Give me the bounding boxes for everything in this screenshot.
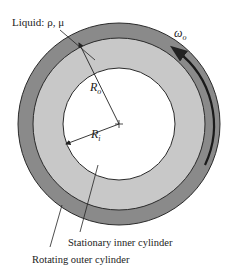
inner-cylinder-label: Stationary inner cylinder — [68, 237, 173, 248]
omega-label: ωo — [174, 26, 186, 42]
diagram-canvas: Liquid: ρ, μ ωo Ro Ri Stationary inner c… — [0, 0, 232, 274]
outer-cylinder-leader — [50, 205, 62, 247]
outer-cylinder-label: Rotating outer cylinder — [32, 254, 130, 265]
liquid-label: Liquid: ρ, μ — [12, 16, 64, 28]
cylinders-diagram: Liquid: ρ, μ ωo Ro Ri Stationary inner c… — [0, 0, 232, 274]
